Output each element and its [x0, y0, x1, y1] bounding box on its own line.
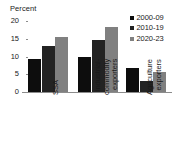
legend-swatch-icon [130, 26, 134, 30]
legend-label: 2000-09 [137, 14, 164, 22]
category-label-line: exporters [111, 59, 120, 95]
category-label-1: Industrial-commodityexporters [94, 59, 120, 95]
category-label-0: SSA [52, 80, 61, 95]
category-label-line: SSA [52, 80, 61, 95]
category-label-line: exporters [155, 59, 164, 95]
y-axis-tick-20: 20 [5, 17, 19, 25]
bar-1-0 [78, 57, 91, 93]
legend-swatch-icon [130, 37, 134, 41]
bar-chart: Percent 20151050 2000-092010-192020-23 S… [0, 0, 176, 147]
legend-label: 2010-19 [137, 24, 164, 32]
y-axis-tick-0: 0 [5, 88, 19, 96]
bar-group-0 [28, 21, 71, 92]
bar-2-0 [126, 68, 139, 92]
y-axis-tick-10: 10 [5, 53, 19, 61]
legend-item-1[interactable]: 2010-19 [130, 24, 164, 33]
bar-0-0 [28, 59, 41, 92]
legend-item-0[interactable]: 2000-09 [130, 14, 164, 23]
y-axis-tick-labels: 20151050 [5, 0, 19, 147]
legend-item-2[interactable]: 2020-23 [130, 34, 164, 43]
legend-swatch-icon [130, 16, 134, 20]
y-axis-tick-5: 5 [5, 70, 19, 78]
y-axis-tick-15: 15 [5, 35, 19, 43]
legend-label: 2020-23 [137, 35, 164, 43]
chart-legend: 2000-092010-192020-23 [130, 14, 164, 45]
category-label-2: Agricultureexporters [146, 59, 163, 95]
